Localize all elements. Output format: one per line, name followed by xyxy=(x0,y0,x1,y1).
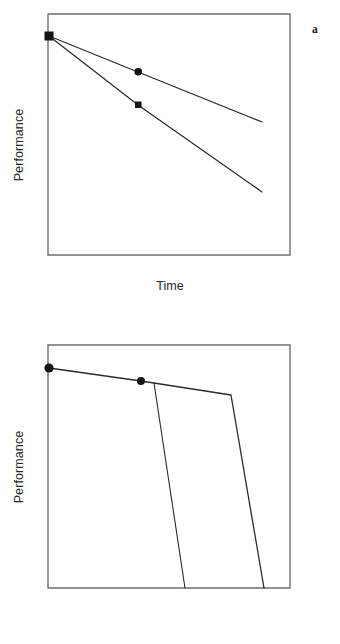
panel-b-plot xyxy=(0,322,340,644)
panel-a-plot xyxy=(0,0,340,322)
panel-a: Performance Time a xyxy=(0,0,340,322)
data-marker-steep-a xyxy=(135,102,142,109)
plot-frame-b xyxy=(48,345,290,588)
y-axis-label-b: Performance xyxy=(12,397,26,537)
panel-b: Performance Time b xyxy=(0,322,340,644)
series-line-early-collapse-b xyxy=(154,383,185,588)
data-marker-origin-b xyxy=(44,363,53,372)
data-marker-origin-a xyxy=(45,32,54,41)
figure-two-panel-performance-time: Performance Time a Performance Time b xyxy=(0,0,340,644)
axis-box-b xyxy=(48,345,290,588)
panel-letter-a: a xyxy=(312,23,318,35)
y-axis-label-a: Performance xyxy=(12,75,26,215)
x-axis-label-a: Time xyxy=(50,279,290,293)
data-marker-shallow-a xyxy=(135,68,143,76)
data-marker-plateau-b xyxy=(137,377,145,385)
series-line-shallow-a xyxy=(49,36,262,122)
series-line-steep-a xyxy=(49,36,262,192)
